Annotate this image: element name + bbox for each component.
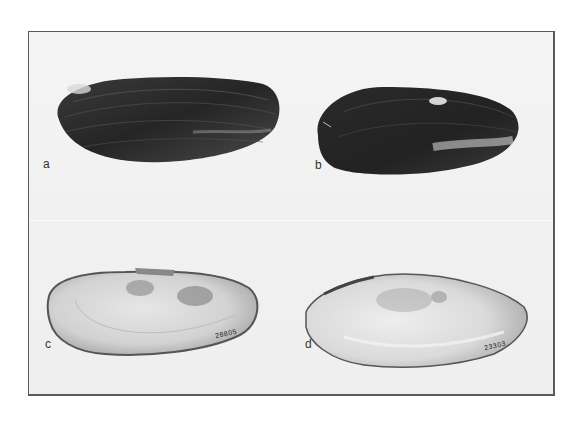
panel-divider	[29, 220, 553, 221]
shell-exterior-b-image	[313, 72, 533, 172]
panel-b	[313, 72, 533, 172]
figure-frame: a b	[28, 31, 555, 396]
shell-interior-d-image	[304, 272, 534, 372]
panel-label-c: c	[45, 337, 51, 351]
shell-exterior-a-image	[43, 72, 283, 172]
panel-d: 23303	[304, 272, 534, 372]
panel-label-b: b	[315, 158, 322, 172]
shell-interior-c-image	[45, 260, 265, 360]
panel-label-a: a	[43, 157, 50, 171]
panel-a	[43, 72, 283, 172]
panel-c: 28805	[45, 260, 265, 360]
panel-label-d: d	[305, 337, 312, 351]
